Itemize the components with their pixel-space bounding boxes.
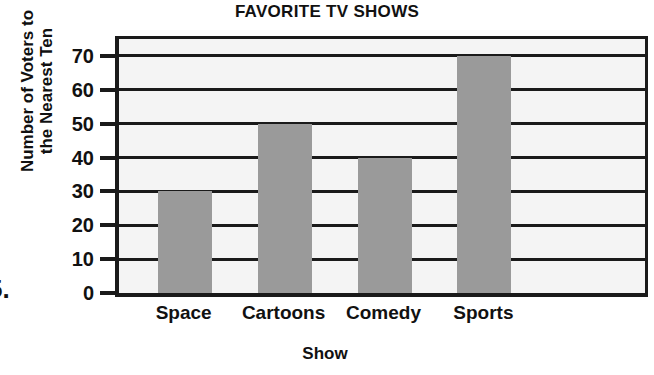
y-tick-label: 20	[46, 215, 94, 235]
y-axis-label: Number of Voters to the Nearest Ten	[18, 0, 56, 206]
y-tick-mark	[100, 122, 116, 126]
y-tick-mark	[100, 291, 116, 295]
y-tick-mark	[100, 88, 116, 92]
y-tick-label: 30	[46, 181, 94, 201]
bar	[158, 191, 212, 293]
y-tick-label: 40	[46, 148, 94, 168]
y-tick-label: 50	[46, 114, 94, 134]
bar	[457, 56, 511, 293]
y-tick-label: 60	[46, 80, 94, 100]
plot-area	[115, 36, 648, 297]
y-tick-label: 10	[46, 249, 94, 269]
bar	[258, 124, 312, 293]
question-number: 5.	[0, 276, 10, 302]
y-tick-mark	[100, 54, 116, 58]
bars-group	[119, 39, 645, 293]
category-label: Sports	[423, 302, 543, 324]
y-tick-mark	[100, 223, 116, 227]
x-axis-label: Show	[115, 344, 535, 364]
y-tick-mark	[100, 156, 116, 160]
y-tick-label: 0	[46, 283, 94, 303]
chart-title: FAVORITE TV SHOWS	[0, 2, 654, 22]
bar-chart-figure: 5. FAVORITE TV SHOWS Number of Voters to…	[0, 0, 654, 375]
y-tick-mark	[100, 257, 116, 261]
y-tick-mark	[100, 189, 116, 193]
y-axis-label-line-1: Number of Voters to	[18, 0, 37, 206]
bar	[358, 158, 412, 293]
y-axis-label-line-2: the Nearest Ten	[37, 0, 56, 206]
y-tick-label: 70	[46, 46, 94, 66]
